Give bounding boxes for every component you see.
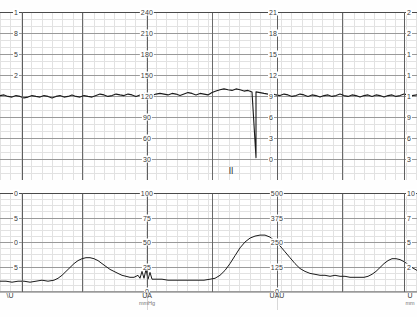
axis-tick-label: 90 (142, 114, 152, 121)
axis-tick-label: 5 (406, 239, 412, 246)
axis-tick-label: 250 (270, 239, 284, 246)
axis-tick-label: 1 (406, 93, 412, 100)
axis-tick-label: 5 (13, 214, 19, 221)
axis-tick-label: 2 (406, 9, 412, 16)
footer-axis-label: Umm (405, 292, 414, 306)
fetal-heart-rate-panel: 1852240210180150120906030211815129630221… (0, 12, 417, 180)
axis-tick-label: 30 (142, 156, 152, 163)
axis-tick-label: 5 (13, 263, 19, 270)
footer-label-text: UA (142, 292, 152, 299)
footer-axis-label: UAU (270, 292, 285, 299)
axis-tick-label: 0 (13, 239, 19, 246)
axis-tick-label: 1 (406, 72, 412, 79)
axis-tick-label: 21 (268, 9, 278, 16)
axis-tick-label: 150 (140, 72, 154, 79)
uterine-activity-panel: 05051007550250500375250125010752 (0, 193, 417, 292)
axis-tick-label: 9 (268, 93, 274, 100)
axis-tick-label: 50 (142, 239, 152, 246)
axis-bar-fhr-kpa-right (277, 12, 278, 180)
footer-axis-label: UAmmHg (139, 292, 155, 306)
axis-tick-label: 1 (406, 51, 412, 58)
footer-label-text: \U (7, 292, 14, 299)
footer-label-text: UAU (270, 292, 285, 299)
axis-tick-label: 18 (268, 30, 278, 37)
axis-tick-label: 10 (406, 190, 416, 197)
axis-bar-fhr-right-clipped (404, 12, 405, 180)
axis-tick-label: 500 (270, 190, 284, 197)
axis-bar-fhr-left-clipped (22, 12, 23, 180)
axis-tick-label: 125 (270, 263, 284, 270)
axis-tick-label: 7 (406, 214, 412, 221)
toco-trace-graphic (0, 193, 417, 292)
axis-tick-label: 12 (268, 72, 278, 79)
axis-tick-label: 210 (140, 30, 154, 37)
axis-tick-label: 3 (268, 135, 274, 142)
footer-label-unit: mmHg (139, 300, 155, 306)
ctg-chart-strip: 1852240210180150120906030211815129630221… (0, 0, 417, 317)
axis-tick-label: 25 (142, 263, 152, 270)
event-marker: ӀӀ (229, 167, 234, 176)
axis-footer: \UUAmmHgUAUUmm (0, 292, 417, 317)
footer-rule (0, 292, 417, 293)
axis-tick-label: 5 (13, 51, 19, 58)
axis-tick-label: 9 (406, 114, 412, 121)
footer-label-unit: mm (405, 300, 414, 306)
axis-tick-label: 15 (268, 51, 278, 58)
footer-label-text: U (407, 292, 412, 299)
axis-tick-label: 100 (140, 190, 154, 197)
axis-tick-label: 2 (13, 72, 19, 79)
axis-tick-label: 6 (406, 135, 412, 142)
axis-tick-label: 1 (13, 9, 19, 16)
axis-tick-label: 3 (406, 156, 412, 163)
footer-axis-label: \U (7, 292, 14, 299)
axis-tick-label: 2 (406, 30, 412, 37)
axis-bar-toco-left-clipped (22, 193, 23, 292)
axis-tick-label: 180 (140, 51, 154, 58)
axis-tick-label: 0 (268, 156, 274, 163)
axis-tick-label: 0 (13, 190, 19, 197)
axis-tick-label: 120 (140, 93, 154, 100)
axis-tick-label: 375 (270, 214, 284, 221)
axis-bar-toco-right-clipped (404, 193, 405, 292)
axis-tick-label: 6 (268, 114, 274, 121)
axis-tick-label: 240 (140, 9, 154, 16)
axis-tick-label: 8 (13, 30, 19, 37)
fhr-trace-graphic (0, 12, 417, 180)
axis-tick-label: 60 (142, 135, 152, 142)
axis-tick-label: 2 (406, 263, 412, 270)
axis-tick-label: 75 (142, 214, 152, 221)
